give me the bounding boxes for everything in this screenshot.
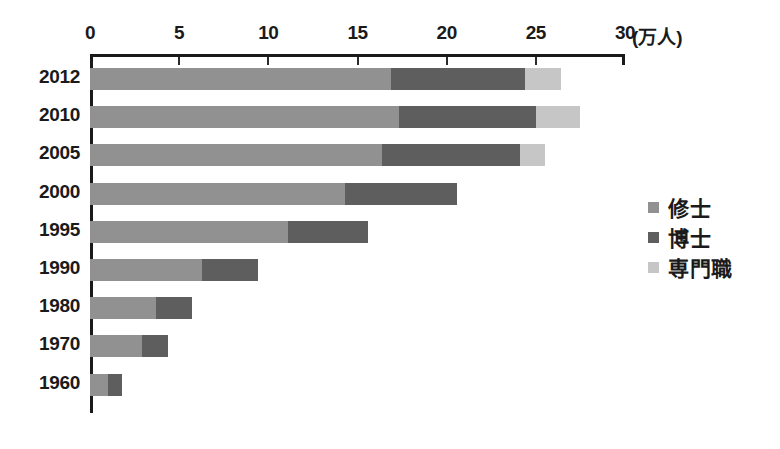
bar-row: 1990 (90, 259, 625, 281)
bar-segment-修士-2012 (90, 68, 391, 90)
bar-segment-修士-2005 (90, 144, 382, 166)
legend-swatch-master (648, 202, 659, 213)
x-tick-label-15: 15 (347, 22, 367, 44)
bar-segment-修士-1970 (90, 335, 142, 357)
category-label-2000: 2000 (39, 181, 80, 203)
x-tick-label-10: 10 (258, 22, 278, 44)
chart-legend: 修士 博士 専門職 (648, 192, 733, 282)
bar-segment-博士-2012 (391, 68, 525, 90)
bar-segment-修士-1980 (90, 297, 156, 319)
bar-segment-修士-1990 (90, 259, 202, 281)
category-label-1960: 1960 (39, 372, 80, 394)
bar-segment-専門職-2012 (525, 68, 561, 90)
plot-area: 051015202530 201220102005200019951990198… (90, 58, 625, 413)
legend-label-doctor: 博士 (668, 222, 711, 252)
bar-segment-博士-2010 (399, 106, 536, 128)
bar-segment-専門職-2005 (520, 144, 545, 166)
bar-row: 1970 (90, 335, 625, 357)
legend-label-master: 修士 (668, 192, 711, 222)
legend-item-professional: 専門職 (648, 252, 733, 282)
x-tick-label-5: 5 (174, 22, 184, 44)
bar-segment-修士-2010 (90, 106, 399, 128)
legend-item-master: 修士 (648, 192, 733, 222)
bar-segment-博士-1970 (142, 335, 169, 357)
x-tick-15 (357, 57, 359, 65)
category-label-2010: 2010 (39, 104, 80, 126)
category-label-1990: 1990 (39, 257, 80, 279)
x-tick-25 (535, 57, 537, 65)
bar-segment-博士-2005 (382, 144, 519, 166)
bar-segment-専門職-2010 (536, 106, 581, 128)
category-label-2012: 2012 (39, 66, 80, 88)
bar-segment-博士-1990 (202, 259, 257, 281)
stacked-bar-chart: 051015202530 201220102005200019951990198… (0, 0, 780, 449)
category-label-1995: 1995 (39, 219, 80, 241)
x-tick-5 (178, 57, 180, 65)
bar-row: 2000 (90, 183, 625, 205)
x-tick-label-20: 20 (437, 22, 457, 44)
legend-label-professional: 専門職 (668, 252, 733, 282)
x-axis-end-cap (622, 54, 625, 65)
bar-row: 1980 (90, 297, 625, 319)
category-label-1980: 1980 (39, 295, 80, 317)
x-tick-label-0: 0 (85, 22, 95, 44)
bar-segment-博士-1995 (288, 221, 368, 243)
bar-row: 2010 (90, 106, 625, 128)
bar-row: 2012 (90, 68, 625, 90)
bar-segment-修士-1995 (90, 221, 288, 243)
bar-row: 1960 (90, 374, 625, 396)
x-tick-20 (446, 57, 448, 65)
legend-item-doctor: 博士 (648, 222, 733, 252)
bar-row: 2005 (90, 144, 625, 166)
category-label-2005: 2005 (39, 142, 80, 164)
x-tick-label-25: 25 (526, 22, 546, 44)
bar-segment-博士-1960 (108, 374, 122, 396)
bar-segment-修士-2000 (90, 183, 345, 205)
bar-segment-修士-1960 (90, 374, 108, 396)
bar-segment-博士-1980 (156, 297, 192, 319)
x-tick-10 (267, 57, 269, 65)
legend-swatch-professional (648, 262, 659, 273)
category-label-1970: 1970 (39, 333, 80, 355)
legend-swatch-doctor (648, 232, 659, 243)
bar-row: 1995 (90, 221, 625, 243)
x-axis-unit-label: (万人) (632, 22, 683, 49)
bar-segment-博士-2000 (345, 183, 457, 205)
